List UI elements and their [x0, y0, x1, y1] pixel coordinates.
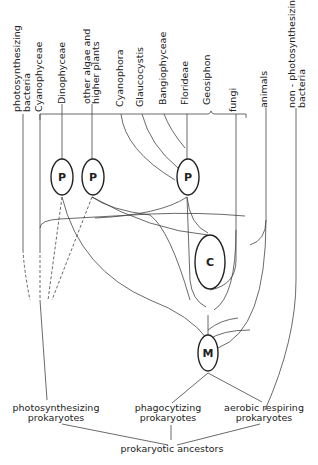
label-other-algae-2: higher plants	[90, 41, 101, 104]
label-geosiphon: Geosiphon	[201, 55, 212, 106]
bottom-labels: photosynthesizing prokaryotes phagocytiz…	[13, 402, 304, 454]
label-fungi: fungi	[227, 88, 238, 112]
label-prokaryotic-ancestors: prokaryotic ancestors	[121, 443, 224, 454]
node-p3: P	[177, 159, 199, 195]
label-photosynthesizing-prokaryotes-2: prokaryotes	[28, 412, 85, 423]
connections	[23, 104, 296, 445]
phylogeny-diagram: photosynthesizing bacteria Cyanophyceae …	[0, 0, 318, 465]
node-p2-label: P	[89, 171, 97, 184]
label-phagocytizing-prokaryotes-2: prokaryotes	[140, 412, 197, 423]
node-p3-label: P	[184, 171, 192, 184]
label-florideae: Florideae	[179, 61, 190, 105]
label-glaucocystis: Glaucocystis	[134, 47, 145, 107]
node-m: M	[198, 335, 218, 371]
label-dinophyceae: Dinophyceae	[56, 42, 67, 104]
node-c-label: C	[206, 256, 214, 269]
label-cyanophyceae: Cyanophyceae	[33, 42, 44, 112]
label-animals: animals	[258, 71, 269, 108]
node-m-label: M	[203, 347, 214, 360]
node-p1-label: P	[58, 171, 66, 184]
label-non-photosynthesizing-2: bacteria	[296, 69, 307, 108]
label-aerobic-prokaryotes-2: prokaryotes	[236, 412, 293, 423]
label-bangiophyceae: Bangiophyceae	[157, 32, 168, 105]
label-cyanophora: Cyanophora	[114, 49, 125, 107]
node-p1: P	[51, 159, 73, 195]
node-c: C	[195, 235, 225, 289]
top-labels: photosynthesizing bacteria Cyanophyceae …	[11, 0, 307, 112]
node-p2: P	[82, 159, 104, 195]
label-photosynthesizing-bacteria-2: bacteria	[21, 73, 32, 112]
